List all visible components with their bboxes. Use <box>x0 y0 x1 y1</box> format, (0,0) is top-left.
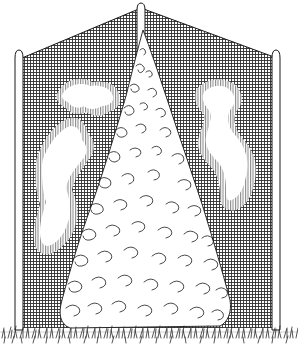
grass <box>0 326 298 343</box>
right-post <box>272 50 280 330</box>
left-post <box>15 50 23 330</box>
illustration <box>0 0 298 347</box>
shrub-netting-drawing <box>0 0 298 347</box>
